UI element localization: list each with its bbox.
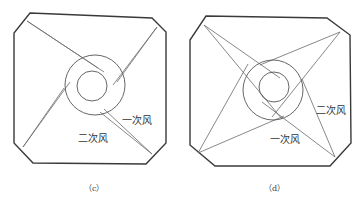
airflow-line [27,21,104,72]
label-secondary-air-d: 二次风 [316,104,346,116]
inner-tangent-circle-c [77,71,107,101]
airflow-lines-d [198,25,340,157]
airflow-line [204,25,280,78]
label-primary-air-d: 一次风 [270,133,300,145]
airflow-line [23,88,64,147]
panel-c-tangential-firing: 一次风 二次风 （c） [14,13,166,193]
caption-d: （d） [264,184,285,193]
inner-tangent-circle-d [259,72,289,102]
airflow-line [302,79,335,157]
caption-c: （c） [84,184,104,193]
panel-d-tangential-firing: 二次风 一次风 （d） [190,16,351,193]
outer-tangent-circle-c [65,55,125,115]
label-primary-air-c: 一次风 [122,114,152,126]
airflow-line [198,64,248,153]
label-secondary-air-c: 二次风 [78,132,108,144]
boiler-cross-section-diagram: 一次风 二次风 （c） 二次风 一次风 （d） [0,0,363,203]
